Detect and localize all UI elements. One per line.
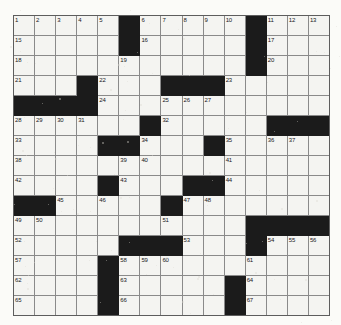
grid-open-cell[interactable]: 20	[267, 56, 288, 76]
grid-open-cell[interactable]: 6	[140, 16, 161, 36]
grid-open-cell[interactable]	[98, 236, 119, 256]
grid-open-cell[interactable]: 30	[56, 116, 77, 136]
grid-open-cell[interactable]	[204, 56, 225, 76]
grid-open-cell[interactable]	[77, 296, 98, 316]
grid-open-cell[interactable]	[35, 276, 56, 296]
grid-open-cell[interactable]	[98, 56, 119, 76]
grid-open-cell[interactable]	[183, 136, 204, 156]
grid-open-cell[interactable]: 37	[288, 136, 309, 156]
grid-open-cell[interactable]	[77, 136, 98, 156]
grid-open-cell[interactable]	[77, 36, 98, 56]
grid-open-cell[interactable]	[267, 196, 288, 216]
grid-open-cell[interactable]	[309, 36, 330, 56]
grid-open-cell[interactable]	[309, 276, 330, 296]
grid-open-cell[interactable]	[288, 36, 309, 56]
grid-open-cell[interactable]	[246, 176, 267, 196]
grid-open-cell[interactable]	[309, 96, 330, 116]
grid-open-cell[interactable]: 7	[161, 16, 182, 36]
grid-open-cell[interactable]: 49	[14, 216, 35, 236]
grid-open-cell[interactable]	[98, 216, 119, 236]
grid-open-cell[interactable]	[35, 76, 56, 96]
grid-open-cell[interactable]	[225, 36, 246, 56]
grid-open-cell[interactable]	[56, 56, 77, 76]
grid-open-cell[interactable]: 34	[140, 136, 161, 156]
grid-open-cell[interactable]	[204, 156, 225, 176]
grid-open-cell[interactable]: 13	[309, 16, 330, 36]
grid-open-cell[interactable]	[267, 296, 288, 316]
grid-open-cell[interactable]: 65	[14, 296, 35, 316]
grid-open-cell[interactable]	[204, 276, 225, 296]
grid-open-cell[interactable]	[183, 36, 204, 56]
grid-open-cell[interactable]	[56, 156, 77, 176]
grid-open-cell[interactable]: 44	[225, 176, 246, 196]
grid-open-cell[interactable]	[267, 276, 288, 296]
grid-open-cell[interactable]	[288, 76, 309, 96]
grid-open-cell[interactable]	[35, 156, 56, 176]
grid-open-cell[interactable]	[56, 216, 77, 236]
grid-open-cell[interactable]	[309, 296, 330, 316]
grid-open-cell[interactable]: 11	[267, 16, 288, 36]
grid-open-cell[interactable]	[309, 196, 330, 216]
grid-open-cell[interactable]	[267, 76, 288, 96]
grid-open-cell[interactable]: 5	[98, 16, 119, 36]
grid-open-cell[interactable]: 39	[119, 156, 140, 176]
grid-open-cell[interactable]	[35, 176, 56, 196]
grid-open-cell[interactable]	[183, 116, 204, 136]
grid-open-cell[interactable]: 16	[140, 36, 161, 56]
grid-open-cell[interactable]	[288, 296, 309, 316]
grid-open-cell[interactable]: 55	[288, 236, 309, 256]
grid-open-cell[interactable]	[183, 296, 204, 316]
grid-open-cell[interactable]: 9	[204, 16, 225, 36]
grid-open-cell[interactable]	[309, 136, 330, 156]
grid-open-cell[interactable]: 18	[14, 56, 35, 76]
grid-open-cell[interactable]	[267, 256, 288, 276]
grid-open-cell[interactable]	[56, 256, 77, 276]
grid-open-cell[interactable]	[288, 156, 309, 176]
grid-open-cell[interactable]	[98, 116, 119, 136]
grid-open-cell[interactable]: 43	[119, 176, 140, 196]
grid-open-cell[interactable]	[225, 96, 246, 116]
grid-open-cell[interactable]	[246, 196, 267, 216]
grid-open-cell[interactable]	[56, 76, 77, 96]
grid-open-cell[interactable]: 3	[56, 16, 77, 36]
grid-open-cell[interactable]	[161, 156, 182, 176]
grid-open-cell[interactable]	[119, 216, 140, 236]
grid-open-cell[interactable]: 8	[183, 16, 204, 36]
grid-open-cell[interactable]	[56, 136, 77, 156]
grid-open-cell[interactable]: 26	[183, 96, 204, 116]
grid-open-cell[interactable]	[35, 136, 56, 156]
grid-open-cell[interactable]	[77, 176, 98, 196]
grid-open-cell[interactable]	[246, 136, 267, 156]
grid-open-cell[interactable]: 60	[161, 256, 182, 276]
grid-open-cell[interactable]	[119, 96, 140, 116]
grid-open-cell[interactable]	[246, 76, 267, 96]
grid-open-cell[interactable]	[119, 116, 140, 136]
grid-open-cell[interactable]: 61	[246, 256, 267, 276]
grid-open-cell[interactable]	[35, 36, 56, 56]
grid-open-cell[interactable]: 52	[14, 236, 35, 256]
grid-open-cell[interactable]	[288, 176, 309, 196]
grid-open-cell[interactable]: 22	[98, 76, 119, 96]
grid-open-cell[interactable]: 27	[204, 96, 225, 116]
grid-open-cell[interactable]	[140, 276, 161, 296]
grid-open-cell[interactable]: 67	[246, 296, 267, 316]
grid-open-cell[interactable]	[183, 56, 204, 76]
grid-open-cell[interactable]: 42	[14, 176, 35, 196]
grid-open-cell[interactable]: 2	[35, 16, 56, 36]
grid-open-cell[interactable]	[35, 236, 56, 256]
grid-open-cell[interactable]: 51	[161, 216, 182, 236]
grid-open-cell[interactable]: 66	[119, 296, 140, 316]
grid-open-cell[interactable]: 4	[77, 16, 98, 36]
grid-open-cell[interactable]: 23	[225, 76, 246, 96]
grid-open-cell[interactable]	[161, 56, 182, 76]
grid-open-cell[interactable]	[204, 256, 225, 276]
grid-open-cell[interactable]	[77, 256, 98, 276]
grid-open-cell[interactable]: 57	[14, 256, 35, 276]
grid-open-cell[interactable]: 40	[140, 156, 161, 176]
grid-open-cell[interactable]	[35, 56, 56, 76]
grid-open-cell[interactable]	[77, 56, 98, 76]
grid-open-cell[interactable]	[183, 276, 204, 296]
grid-open-cell[interactable]: 58	[119, 256, 140, 276]
grid-open-cell[interactable]: 31	[77, 116, 98, 136]
grid-open-cell[interactable]	[140, 96, 161, 116]
